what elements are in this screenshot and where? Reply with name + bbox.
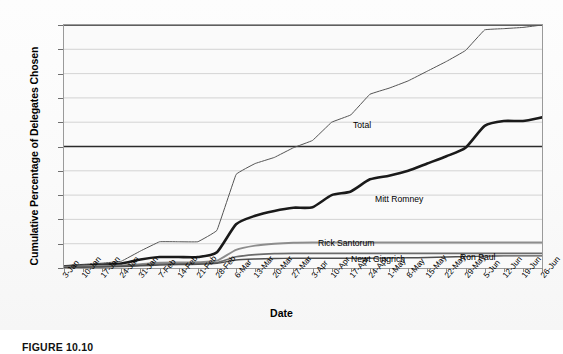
series-label-romney: Mitt Romney [375,194,423,204]
y-axis-title: Cumulative Percentage of Delegates Chose… [28,26,40,286]
series-canvas [64,25,542,268]
series-label-total: Total [353,120,371,130]
figure-container: Cumulative Percentage of Delegates Chose… [0,0,563,354]
plot-area [63,24,543,269]
x-axis-title: Date [0,307,563,319]
series-label-paul: Ron Paul [460,252,495,262]
series-label-gingrich: Newt Gingrich [351,254,405,264]
series-label-santorum: Rick Santorum [318,238,374,248]
chart-figure: Cumulative Percentage of Delegates Chose… [0,0,563,330]
figure-caption: FIGURE 10.10 [22,341,93,353]
